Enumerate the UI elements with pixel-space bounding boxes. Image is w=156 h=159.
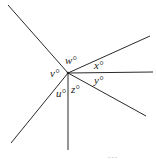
angle-label-w: w° [65,54,77,66]
angle-labels: w° x° v° y° u° z° [50,54,104,99]
ray-lower-right [68,73,146,116]
angle-label-z: z° [70,83,80,95]
ray-upper-right [68,36,150,73]
vertex-point [67,72,70,75]
angle-label-v: v° [50,67,60,79]
angle-label-x: x° [93,59,104,71]
ray-right [68,72,153,73]
ray-lower-left [11,73,68,143]
angle-label-u: u° [56,87,67,99]
angle-label-y: y° [93,74,104,86]
rays [8,5,153,150]
ray-upper-left [8,5,68,73]
footer-fragment: - - - [108,154,117,159]
angle-diagram: w° x° v° y° u° z° - - - [0,0,156,159]
